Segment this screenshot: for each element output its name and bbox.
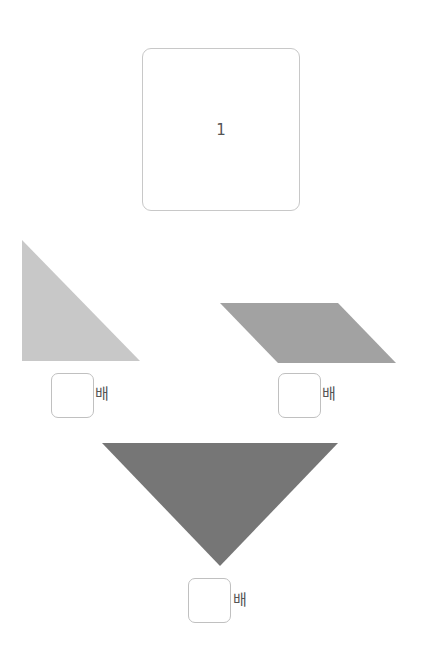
shapes-canvas: [0, 0, 421, 649]
large-inverted-triangle: [102, 443, 338, 566]
parallelogram: [220, 303, 396, 363]
small-right-triangle: [22, 240, 140, 361]
answer-input-3[interactable]: [188, 578, 231, 623]
answer-suffix-2: 배: [322, 385, 336, 403]
answer-input-2[interactable]: [278, 373, 321, 418]
answer-input-1[interactable]: [51, 373, 94, 418]
answer-suffix-3: 배: [233, 591, 247, 609]
answer-suffix-1: 배: [95, 385, 109, 403]
